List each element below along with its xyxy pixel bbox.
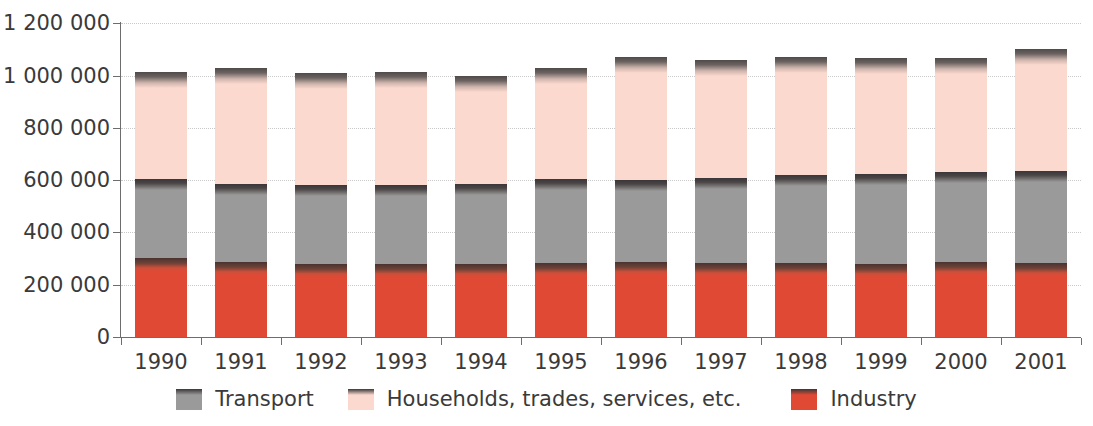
bar-group[interactable] xyxy=(1015,23,1067,337)
bar-segment-industry[interactable] xyxy=(215,262,267,337)
x-axis-tick-mark xyxy=(361,338,362,345)
bar-group[interactable] xyxy=(615,23,667,337)
stacked-bar-chart: 0200 000400 000600 000800 0001 000 0001 … xyxy=(0,0,1093,426)
bar-segment-transport[interactable] xyxy=(1015,171,1067,263)
chart-legend: TransportHouseholds, trades, services, e… xyxy=(0,389,1093,410)
y-axis-tick-label: 1 000 000 xyxy=(3,65,110,86)
x-axis-tick-mark xyxy=(761,338,762,345)
x-axis-tick-label: 1998 xyxy=(774,352,827,373)
x-axis-tick-mark xyxy=(681,338,682,345)
bar-segment-industry[interactable] xyxy=(695,263,747,338)
bar-segment-industry[interactable] xyxy=(935,262,987,337)
bar-segment-industry[interactable] xyxy=(135,258,187,337)
bar-segment-industry[interactable] xyxy=(455,264,507,337)
bar-group[interactable] xyxy=(935,23,987,337)
bar-segment-transport[interactable] xyxy=(775,175,827,263)
x-axis-tick-label: 1997 xyxy=(694,352,747,373)
x-axis-tick-label: 2000 xyxy=(934,352,987,373)
bar-segment-households[interactable] xyxy=(455,76,507,184)
x-axis-tick-label: 1999 xyxy=(854,352,907,373)
bar-segment-transport[interactable] xyxy=(215,184,267,262)
x-axis-tick-label: 2001 xyxy=(1014,352,1067,373)
x-axis-tick-mark xyxy=(201,338,202,345)
bar-segment-transport[interactable] xyxy=(455,184,507,264)
bar-group[interactable] xyxy=(135,23,187,337)
bar-segment-households[interactable] xyxy=(375,72,427,185)
legend-label-transport: Transport xyxy=(215,389,314,410)
x-axis-tick-label: 1991 xyxy=(214,352,267,373)
bar-segment-industry[interactable] xyxy=(1015,263,1067,337)
x-axis-tick-mark xyxy=(601,338,602,345)
bar-segment-households[interactable] xyxy=(935,58,987,172)
bar-group[interactable] xyxy=(775,23,827,337)
x-axis-tick-mark xyxy=(441,338,442,345)
bar-segment-transport[interactable] xyxy=(695,178,747,263)
bar-segment-households[interactable] xyxy=(855,58,907,174)
bar-segment-transport[interactable] xyxy=(615,180,667,262)
x-axis-tick-label: 1990 xyxy=(134,352,187,373)
bar-segment-households[interactable] xyxy=(135,72,187,179)
bar-segment-industry[interactable] xyxy=(855,264,907,337)
y-axis-tick-label: 800 000 xyxy=(23,117,110,138)
bar-segment-households[interactable] xyxy=(695,60,747,178)
bar-segment-households[interactable] xyxy=(295,73,347,185)
x-axis-tick-label: 1995 xyxy=(534,352,587,373)
bar-segment-transport[interactable] xyxy=(295,185,347,264)
x-axis-tick-label: 1996 xyxy=(614,352,667,373)
bar-group[interactable] xyxy=(375,23,427,337)
x-axis-tick-mark xyxy=(841,338,842,345)
y-axis-labels: 0200 000400 000600 000800 0001 000 0001 … xyxy=(0,0,110,426)
legend-swatch-industry xyxy=(791,389,817,410)
y-axis-tick-label: 200 000 xyxy=(23,274,110,295)
x-axis-tick-label: 1993 xyxy=(374,352,427,373)
x-axis-tick-label: 1994 xyxy=(454,352,507,373)
x-axis-tick-mark xyxy=(921,338,922,345)
bar-segment-industry[interactable] xyxy=(535,263,587,337)
bar-group[interactable] xyxy=(855,23,907,337)
bar-segment-industry[interactable] xyxy=(375,264,427,337)
bar-group[interactable] xyxy=(215,23,267,337)
y-axis-tick-label: 400 000 xyxy=(23,222,110,243)
y-axis-tick-label: 0 xyxy=(97,327,110,348)
bar-segment-households[interactable] xyxy=(215,68,267,184)
bar-segment-households[interactable] xyxy=(775,57,827,175)
bar-group[interactable] xyxy=(695,23,747,337)
legend-swatch-transport xyxy=(176,389,202,410)
bar-segment-transport[interactable] xyxy=(135,179,187,258)
x-axis-tick-mark xyxy=(521,338,522,345)
x-axis-tick-mark xyxy=(1081,338,1082,345)
plot-area xyxy=(121,18,1081,343)
x-axis-tick-label: 1992 xyxy=(294,352,347,373)
y-axis-tick-label: 1 200 000 xyxy=(3,13,110,34)
bar-segment-transport[interactable] xyxy=(855,174,907,264)
x-axis-tick-mark xyxy=(1001,338,1002,345)
legend-item-households[interactable]: Households, trades, services, etc. xyxy=(348,389,742,410)
bar-segment-households[interactable] xyxy=(615,57,667,180)
y-axis-tick-label: 600 000 xyxy=(23,170,110,191)
legend-item-transport[interactable]: Transport xyxy=(176,389,314,410)
legend-label-households: Households, trades, services, etc. xyxy=(387,389,742,410)
legend-swatch-households xyxy=(348,389,374,410)
x-axis-tick-mark xyxy=(281,338,282,345)
bar-group[interactable] xyxy=(535,23,587,337)
bar-segment-industry[interactable] xyxy=(295,264,347,337)
bar-segment-households[interactable] xyxy=(535,68,587,179)
bar-segment-industry[interactable] xyxy=(615,262,667,337)
bar-group[interactable] xyxy=(455,23,507,337)
legend-item-industry[interactable]: Industry xyxy=(791,389,916,410)
bar-segment-transport[interactable] xyxy=(375,185,427,264)
bar-segment-industry[interactable] xyxy=(775,263,827,337)
bar-group[interactable] xyxy=(295,23,347,337)
x-axis-tick-mark xyxy=(121,338,122,345)
bar-segment-transport[interactable] xyxy=(935,172,987,262)
legend-label-industry: Industry xyxy=(830,389,916,410)
bar-segment-households[interactable] xyxy=(1015,49,1067,170)
bar-segment-transport[interactable] xyxy=(535,179,587,263)
